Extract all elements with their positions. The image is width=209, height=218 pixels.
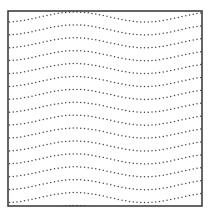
wave-line (9, 76, 202, 87)
wave-line (9, 50, 202, 61)
wave-line (9, 166, 202, 177)
wave-pattern-canvas (0, 0, 209, 218)
frame-border (8, 11, 202, 206)
wave-line (9, 102, 202, 113)
wave-line (9, 89, 202, 100)
wave-line (9, 114, 202, 125)
wave-line (9, 63, 202, 74)
wave-line (9, 179, 202, 190)
dotted-wave-lines (9, 11, 202, 216)
wave-line (9, 140, 202, 151)
wave-line (9, 37, 202, 48)
wave-line (9, 11, 202, 22)
wave-line (9, 192, 202, 203)
wave-line (9, 153, 202, 164)
wave-line (9, 24, 202, 35)
wave-pattern-figure (0, 0, 209, 218)
wave-line (9, 127, 202, 138)
